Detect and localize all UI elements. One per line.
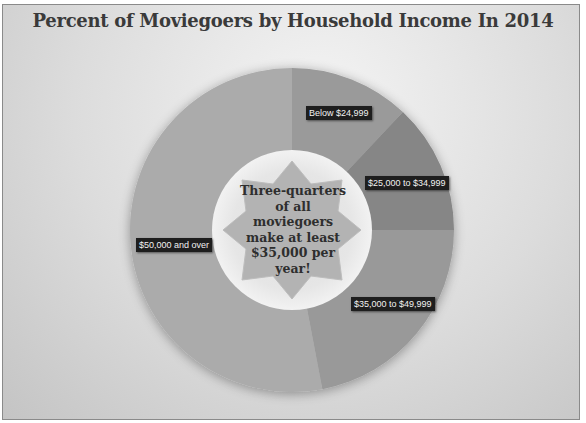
data-label-35000-49999: $35,000 to $49,999 [351, 297, 435, 311]
data-label-below-24999: Below $24,999 [306, 106, 372, 120]
center-annotation: Three-quarters of all moviegoers make at… [240, 183, 346, 276]
data-label-25000-34999: $25,000 to $34,999 [365, 176, 449, 190]
data-label-50000-over: $50,000 and over [136, 238, 212, 252]
